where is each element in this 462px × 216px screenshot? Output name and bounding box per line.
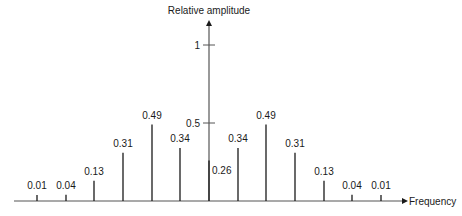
- value-label: 0.34: [228, 133, 248, 144]
- value-label: 0.01: [27, 180, 47, 191]
- stem-chart: 0.51 0.010.040.130.310.490.340.260.340.4…: [0, 0, 462, 216]
- value-label: 0.13: [84, 166, 104, 177]
- value-label: 0.01: [371, 180, 391, 191]
- value-label: 0.49: [256, 110, 276, 121]
- value-label: 0.13: [314, 166, 334, 177]
- value-label: 0.49: [142, 110, 162, 121]
- value-label: 0.04: [56, 180, 76, 191]
- y-axis-arrow-icon: [206, 20, 212, 26]
- value-label: 0.26: [212, 165, 232, 176]
- x-axis-arrow-icon: [402, 198, 408, 204]
- value-label: 0.31: [113, 138, 133, 149]
- value-label: 0.34: [170, 133, 190, 144]
- value-label: 0.31: [285, 138, 305, 149]
- y-tick-label: 1: [194, 40, 200, 51]
- value-label: 0.04: [342, 180, 362, 191]
- y-tick-label: 0.5: [186, 118, 200, 129]
- axes: 0.51: [14, 20, 408, 204]
- x-axis-label: Frequency: [409, 196, 456, 207]
- y-axis-label: Relative amplitude: [168, 5, 251, 16]
